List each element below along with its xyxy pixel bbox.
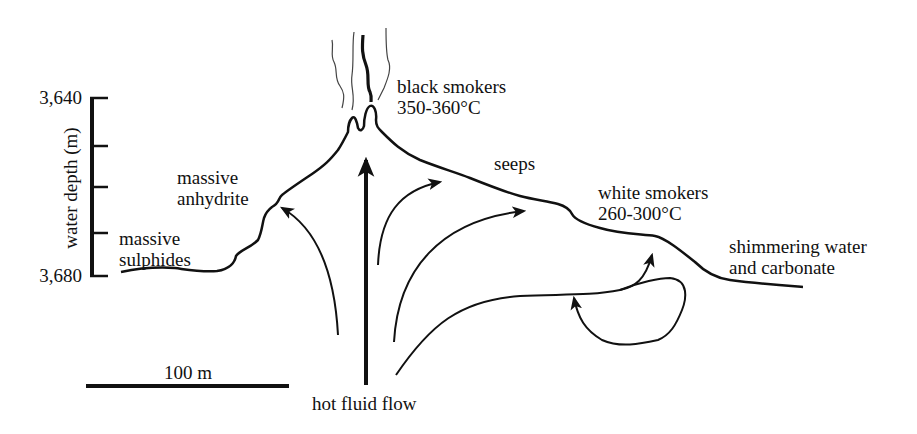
white-smokers-temp: 260-300°C [598, 203, 682, 224]
massive-sulphides-label-1: massive [119, 228, 180, 249]
depth-axis: 3,640 3,680 water depth (m) [39, 87, 108, 286]
smoke-plumes [332, 28, 390, 110]
flow-arrow-right [394, 211, 524, 342]
flow-arrow-left [282, 208, 338, 335]
smoke-plume [352, 32, 354, 110]
black-smoke-plume [362, 35, 371, 102]
shimmering-water-label-2: and carbonate [729, 257, 835, 278]
black-smokers-temp: 350-360°C [397, 97, 481, 118]
scale-bar-label: 100 m [164, 362, 212, 383]
shimmering-water-label-1: shimmering water [729, 236, 867, 257]
flow-arrow-far-right [396, 255, 652, 375]
hydrothermal-mound-diagram: 3,640 3,680 water depth (m) 100 m black … [0, 0, 917, 434]
smoke-plume [332, 40, 344, 108]
annotations: black smokers 350-360°C massive anhydrit… [119, 76, 867, 414]
depth-axis-label: water depth (m) [60, 127, 82, 248]
seeps-label: seeps [494, 153, 535, 174]
massive-anhydrite-label-2: anhydrite [177, 188, 249, 209]
scale-bar: 100 m [86, 362, 289, 386]
depth-tick-label-bottom: 3,680 [39, 265, 82, 286]
white-smokers-label: white smokers [598, 182, 708, 203]
black-smokers-label: black smokers [397, 76, 506, 97]
smoke-plume [378, 28, 390, 100]
massive-anhydrite-label-1: massive [177, 167, 238, 188]
hot-fluid-flow-label: hot fluid flow [312, 393, 417, 414]
massive-sulphides-label-2: sulphides [119, 249, 191, 270]
depth-tick-label-top: 3,640 [39, 87, 82, 108]
